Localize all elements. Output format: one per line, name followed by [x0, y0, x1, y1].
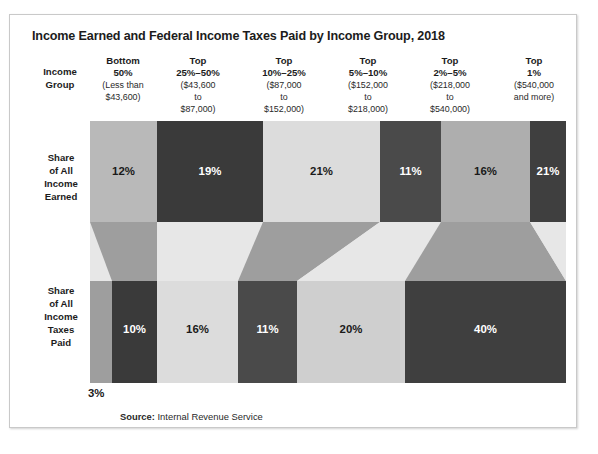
value-earned-top-10-25: 21% [263, 165, 380, 177]
col-head-range-line2: to [160, 92, 236, 103]
col-head-range-line3: $87,000) [160, 104, 236, 115]
col-head-name-line1: Top [244, 55, 324, 67]
col-head-range-line2: $43,600) [92, 92, 154, 103]
col-head-range-line1: (Less than [92, 80, 154, 91]
value-earned-top-5-10: 11% [380, 165, 441, 177]
col-head-range-line3: $152,000) [244, 104, 324, 115]
column-header-top-2-5: Top 2%–5% ($218,000 to $540,000) [410, 55, 490, 116]
row-label-line1: Share [48, 152, 75, 163]
stacked-ribbon-chart-svg [10, 121, 577, 383]
value-earned-top-25-50: 19% [157, 165, 263, 177]
col-head-name-line2: 10%–25% [244, 67, 324, 79]
col-head-range-line1: ($540,000 [494, 80, 574, 91]
value-taxes-top-1: 40% [405, 323, 566, 335]
col-head-range-line3: $540,000) [410, 104, 490, 115]
col-head-range-line1: ($218,000 [410, 80, 490, 91]
col-head-name-line1: Top [160, 55, 236, 67]
col-head-name-line2: 2%–5% [410, 67, 490, 79]
col-head-range-line3: $218,000) [328, 104, 408, 115]
value-taxes-top-25-50: 10% [112, 323, 157, 335]
col-head-name-line2: 5%–10% [328, 67, 408, 79]
source-note: Source: Internal Revenue Service [120, 411, 263, 422]
value-taxes-top-10-25: 16% [157, 323, 238, 335]
chart-title: Income Earned and Federal Income Taxes P… [32, 29, 445, 43]
col-head-range-line1: ($87,000 [244, 80, 324, 91]
col-head-name-line2: 1% [494, 67, 574, 79]
income-group-axis-label: Income Group [30, 65, 90, 91]
row-label-income-taxes-paid: Share of All Income Taxes Paid [30, 284, 92, 349]
col-head-range-line2: to [410, 92, 490, 103]
source-value: Internal Revenue Service [155, 411, 263, 422]
row-label-line1: Share [48, 285, 75, 296]
col-head-name-line1: Top [328, 55, 408, 67]
value-taxes-bottom-50-outside: 3% [88, 387, 104, 399]
column-header-top-25-50: Top 25%–50% ($43,600 to $87,000) [160, 55, 236, 116]
col-head-name-line1: Top [410, 55, 490, 67]
column-header-row: Income Group Bottom 50% (Less than $43,6… [10, 55, 577, 121]
col-head-name-line2: 50% [92, 67, 154, 79]
value-earned-top-2-5: 16% [441, 165, 530, 177]
plot-area: Share of All Income Earned Share of All … [10, 121, 577, 383]
column-header-top-10-25: Top 10%–25% ($87,000 to $152,000) [244, 55, 324, 116]
row-label-line2: of All [49, 165, 73, 176]
row-label-line3: Income [44, 178, 78, 189]
col-head-range-line2: and more) [494, 92, 574, 103]
source-label: Source: [120, 411, 155, 422]
col-head-range-line1: ($43,600 [160, 80, 236, 91]
row-label-line5: Paid [51, 337, 71, 348]
col-head-range-line2: to [244, 92, 324, 103]
value-taxes-top-5-10: 11% [238, 323, 297, 335]
value-earned-bottom-50: 12% [90, 165, 157, 177]
row-label-line4: Earned [45, 191, 78, 202]
col-head-range-line1: ($152,000 [328, 80, 408, 91]
row-label-line4: Taxes [48, 324, 75, 335]
row-label-line3: Income [44, 311, 78, 322]
row-label-line2: of All [49, 298, 73, 309]
col-head-name-line1: Bottom [92, 55, 154, 67]
chart-card: Income Earned and Federal Income Taxes P… [9, 14, 577, 428]
column-header-bottom-50: Bottom 50% (Less than $43,600) [92, 55, 154, 104]
income-group-label-line2: Group [46, 79, 75, 90]
value-earned-top-1: 21% [524, 165, 572, 177]
value-taxes-top-2-5: 20% [297, 323, 405, 335]
col-head-name-line2: 25%–50% [160, 67, 236, 79]
column-header-top-5-10: Top 5%–10% ($152,000 to $218,000) [328, 55, 408, 116]
column-header-top-1: Top 1% ($540,000 and more) [494, 55, 574, 104]
income-group-label-line1: Income [43, 66, 77, 77]
col-head-range-line2: to [328, 92, 408, 103]
bar-taxes-bottom-50 [90, 281, 112, 383]
col-head-name-line1: Top [494, 55, 574, 67]
row-label-income-earned: Share of All Income Earned [30, 151, 92, 203]
